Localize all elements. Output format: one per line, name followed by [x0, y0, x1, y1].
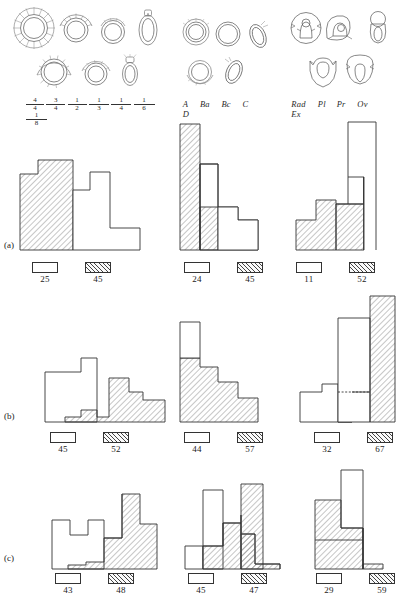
specimen-1-8	[123, 54, 138, 86]
legend-a-middle: 24 45	[184, 262, 263, 284]
specimen-Pr	[370, 12, 385, 44]
legend-swatch-hatched	[349, 262, 375, 273]
legend-sample-size: 52	[357, 274, 367, 284]
fraction-numerator: 1	[68, 97, 87, 104]
legend-sample-size: 25	[40, 274, 50, 284]
fraction-label: 1 3	[89, 97, 109, 112]
row-label-c: (c)	[4, 553, 14, 563]
legend-entry-open: 45	[50, 432, 76, 454]
fraction-numerator: 3	[46, 97, 65, 104]
legend-swatch-hatched	[108, 573, 134, 584]
legend-sample-size: 47	[249, 585, 259, 595]
legend-entry-open: 44	[184, 432, 210, 454]
legend-entry-hatched: 59	[369, 573, 395, 595]
legend-sample-size: 11	[304, 274, 313, 284]
column-label-Ex: Ex	[286, 109, 306, 119]
legend-sample-size: 52	[111, 444, 121, 454]
legend-sample-size: 45	[58, 444, 68, 454]
column-labels-merism: A Ba Bc C D	[178, 99, 266, 119]
legend-entry-hatched: 48	[108, 573, 134, 595]
histogram-c-right	[315, 470, 395, 569]
legend-entry-hatched: 45	[237, 262, 263, 284]
specimen-Bc	[247, 21, 270, 50]
row-label-b: (b)	[4, 411, 15, 421]
fraction-numerator: 1	[134, 97, 155, 104]
specimen-A	[183, 18, 209, 45]
fraction-label: 1 6	[134, 97, 155, 112]
legend-swatch-hatched	[367, 432, 393, 443]
legend-sample-size: 48	[116, 585, 126, 595]
specimen-D	[222, 57, 245, 86]
legend-swatch-open	[55, 573, 81, 584]
legend-entry-open: 45	[188, 573, 214, 595]
figure-plate: 4 4 3 4 1 2 1 3 1 4 1 6 1 8 A Ba Bc	[0, 0, 400, 616]
legend-entry-open: 43	[55, 573, 81, 595]
specimen-Ba	[216, 22, 240, 46]
legend-entry-open: 24	[184, 262, 210, 284]
legend-entry-open: 25	[32, 262, 58, 284]
fraction-denominator: 2	[68, 104, 87, 112]
legend-sample-size: 44	[192, 444, 202, 454]
legend-swatch-open	[32, 262, 58, 273]
specimen-1-2	[101, 18, 125, 44]
fraction-denominator: 4	[46, 104, 65, 112]
specimen-3-4	[60, 14, 92, 43]
fraction-numerator: 4	[26, 97, 44, 104]
histogram-b-right	[300, 296, 395, 422]
legend-swatch-open	[314, 432, 340, 443]
legend-c-right: 29 59	[316, 573, 395, 595]
column-labels-organs: Rad Pl Pr Ov Ex	[286, 99, 392, 119]
specimen-C	[187, 61, 213, 86]
specimen-1-3	[139, 10, 157, 45]
legend-swatch-open	[184, 432, 210, 443]
legend-b-middle: 44 57	[184, 432, 263, 454]
legend-sample-size: 43	[63, 585, 73, 595]
column-label-Pl: Pl	[313, 99, 330, 109]
legend-sample-size: 59	[377, 585, 387, 595]
legend-swatch-open	[188, 573, 214, 584]
legend-a-right: 11 52	[296, 262, 375, 284]
legend-swatch-hatched	[103, 432, 129, 443]
fraction-label: 1 2	[68, 97, 87, 112]
legend-entry-open: 32	[314, 432, 340, 454]
histogram-b-left	[45, 350, 165, 422]
legend-sample-size: 45	[245, 274, 255, 284]
legend-swatch-hatched	[241, 573, 267, 584]
histogram-c-left	[52, 492, 157, 569]
column-label-Ba: Ba	[195, 99, 214, 109]
legend-entry-hatched: 52	[103, 432, 129, 454]
fraction-denominator: 4	[111, 104, 131, 112]
specimen-4-4	[13, 7, 55, 49]
histogram-b-middle	[180, 320, 270, 422]
fraction-denominator: 3	[89, 104, 109, 112]
column-label-D: D	[178, 109, 194, 119]
legend-swatch-hatched	[237, 262, 263, 273]
legend-swatch-hatched	[237, 432, 263, 443]
specimen-1-6	[82, 60, 110, 85]
legend-swatch-open	[316, 573, 342, 584]
legend-sample-size: 24	[192, 274, 202, 284]
histogram-a-middle	[180, 124, 270, 250]
legend-sample-size: 45	[196, 585, 206, 595]
legend-a-left: 25 45	[32, 262, 111, 284]
fraction-numerator: 1	[26, 112, 47, 119]
legend-sample-size: 57	[245, 444, 255, 454]
fraction-numerator: 1	[89, 97, 109, 104]
specimen-Ov	[310, 58, 336, 87]
legend-swatch-hatched	[369, 573, 395, 584]
legend-entry-hatched: 52	[349, 262, 375, 284]
legend-swatch-hatched	[85, 262, 111, 273]
legend-swatch-open	[296, 262, 322, 273]
legend-entry-hatched: 67	[367, 432, 393, 454]
legend-c-left: 43 48	[55, 573, 134, 595]
legend-entry-hatched: 47	[241, 573, 267, 595]
row-label-a: (a)	[4, 240, 14, 250]
fraction-numerator: 1	[111, 97, 131, 104]
column-label-Rad: Rad	[286, 99, 311, 109]
legend-swatch-open	[50, 432, 76, 443]
fraction-denominator: 6	[134, 104, 155, 112]
specimen-diagram-strip	[0, 0, 400, 112]
legend-entry-open: 29	[316, 573, 342, 595]
fraction-label: 1 8	[26, 112, 47, 127]
specimen-Pl	[326, 16, 352, 40]
